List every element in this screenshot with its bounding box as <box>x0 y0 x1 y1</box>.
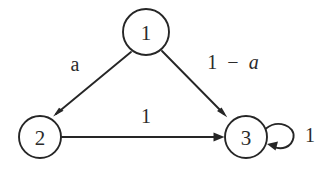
edge-1-to-3-label-minus: − <box>227 51 238 73</box>
edge-3-self-loop-arrowhead <box>267 142 278 151</box>
node-1-label: 1 <box>141 21 152 45</box>
edge-2-to-3-arrowhead <box>214 132 225 141</box>
node-2-label: 2 <box>35 126 46 150</box>
diagram-canvas: 1 2 3 a 1 − a 1 1 <box>0 0 329 172</box>
edge-3-self-loop-label: 1 <box>305 124 315 146</box>
edge-2-to-3-label: 1 <box>141 105 151 127</box>
edge-1-to-3-label-numerator: 1 <box>207 51 217 73</box>
edge-3-self-loop <box>266 124 294 150</box>
edge-1-to-2-label: a <box>71 53 80 75</box>
state-transition-diagram: 1 2 3 a 1 − a 1 1 <box>0 0 329 172</box>
edge-1-to-3-label-variable: a <box>249 51 259 73</box>
edge-1-to-2-line <box>56 52 131 114</box>
edge-1-to-2 <box>53 52 131 116</box>
edge-1-to-3-label: 1 − a <box>207 51 258 73</box>
node-3-label: 3 <box>241 126 252 150</box>
edge-2-to-3 <box>61 132 225 141</box>
